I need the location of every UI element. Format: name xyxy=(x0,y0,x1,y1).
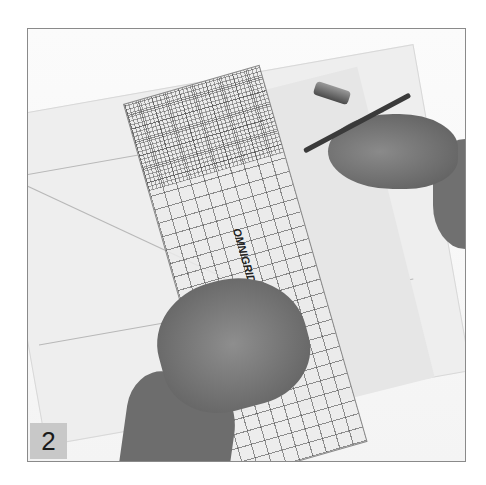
photo-frame: OMNIGRID 18" ruler xyxy=(27,28,466,462)
step-number-badge: 2 xyxy=(30,423,67,459)
